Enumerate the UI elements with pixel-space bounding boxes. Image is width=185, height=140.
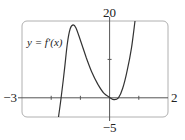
y-min-label: −5 (103, 120, 117, 135)
x-max-label: 2 (171, 90, 178, 105)
derivative-curve (59, 21, 136, 117)
x-min-label: −3 (3, 90, 17, 105)
axes (18, 17, 168, 121)
chart: 20 −5 −3 2 y = f′(x) (0, 0, 185, 140)
function-label: y = f′(x) (26, 36, 63, 49)
y-max-label: 20 (103, 5, 116, 20)
